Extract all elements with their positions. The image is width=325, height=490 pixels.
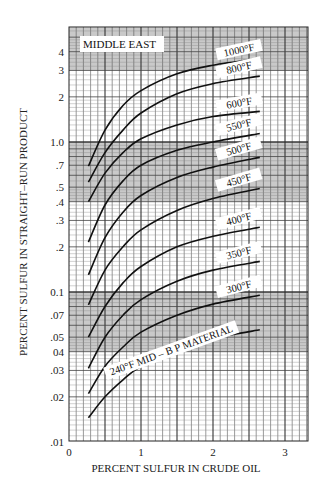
y-tick-label: .4 [56, 196, 65, 208]
y-tick-label: 0.1 [50, 286, 64, 298]
y-tick-label: 4 [59, 46, 65, 58]
y-tick-label: .05 [50, 331, 64, 343]
y-tick-label: .07 [50, 309, 64, 321]
y-tick-label: .03 [50, 364, 64, 376]
y-tick-label: .3 [56, 214, 65, 226]
y-tick-label: .7 [56, 159, 65, 171]
x-tick-label: 2 [210, 446, 216, 458]
x-axis-title: PERCENT SULFUR IN CRUDE OIL [91, 462, 260, 474]
x-axis-ticks: 0123 [66, 446, 288, 458]
y-axis-ticks: 4321.0.7.5.4.3.20.1.07.0504.03.02.01 [50, 46, 64, 448]
region-label: MIDDLE EAST [83, 38, 156, 50]
y-tick-label: 1.0 [50, 136, 64, 148]
y-tick-label: 2 [59, 91, 65, 103]
y-tick-label: 3 [59, 64, 65, 76]
y-tick-label: .2 [56, 241, 64, 253]
x-tick-label: 1 [138, 446, 144, 458]
y-tick-label: .02 [50, 391, 64, 403]
x-tick-label: 3 [282, 446, 288, 458]
sulfur-chart: 1000°F800°F600°F550°F500°F450°F400°F350°… [0, 0, 325, 490]
y-tick-label: .01 [50, 436, 64, 448]
region-label-box: MIDDLE EAST [80, 36, 164, 52]
x-tick-label: 0 [66, 446, 72, 458]
y-axis-title: PERCENT SULFUR IN STRAIGHT–RUN PRODUCT [17, 108, 29, 356]
y-tick-label: .5 [56, 181, 65, 193]
y-tick-label: 04 [53, 346, 65, 358]
